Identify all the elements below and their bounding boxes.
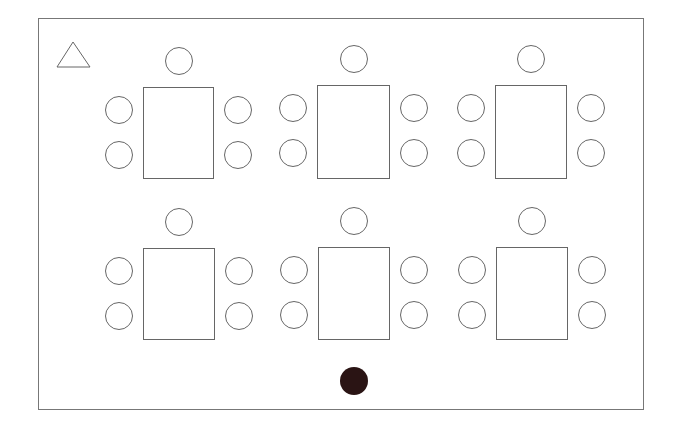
chair-icon <box>224 141 252 169</box>
chair-icon <box>517 45 545 73</box>
chair-icon <box>105 141 133 169</box>
chair-icon <box>458 256 486 284</box>
filled-circle-marker <box>340 367 368 395</box>
chair-icon <box>280 256 308 284</box>
chair-icon <box>457 139 485 167</box>
triangle-icon <box>55 40 93 70</box>
chair-icon <box>105 257 133 285</box>
chair-icon <box>165 47 193 75</box>
chair-icon <box>518 207 546 235</box>
chair-icon <box>225 257 253 285</box>
chair-icon <box>225 302 253 330</box>
chair-icon <box>224 96 252 124</box>
chair-icon <box>577 139 605 167</box>
chair-icon <box>400 256 428 284</box>
chair-icon <box>340 45 368 73</box>
table-6 <box>496 247 568 340</box>
chair-icon <box>105 302 133 330</box>
chair-icon <box>400 139 428 167</box>
chair-icon <box>400 301 428 329</box>
chair-icon <box>279 139 307 167</box>
table-3 <box>495 85 567 179</box>
table-1 <box>143 87 214 179</box>
chair-icon <box>280 301 308 329</box>
chair-icon <box>458 301 486 329</box>
chair-icon <box>578 256 606 284</box>
table-4 <box>143 248 215 340</box>
table-2 <box>317 85 390 179</box>
chair-icon <box>577 94 605 122</box>
chair-icon <box>400 94 428 122</box>
table-5 <box>318 247 390 340</box>
chair-icon <box>105 96 133 124</box>
chair-icon <box>340 207 368 235</box>
chair-icon <box>457 94 485 122</box>
chair-icon <box>578 301 606 329</box>
chair-icon <box>165 208 193 236</box>
chair-icon <box>279 94 307 122</box>
